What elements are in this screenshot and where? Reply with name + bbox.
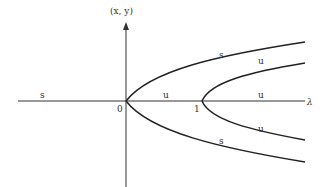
branch-inner-lower: [202, 101, 305, 140]
stability-label-trivial-right: u: [258, 90, 264, 100]
stability-label-trivial-left: s: [40, 90, 45, 100]
x-axis-label: λ: [306, 97, 313, 107]
y-axis-label: (x, y): [110, 6, 133, 16]
stability-label-inner-upper: u: [258, 56, 264, 66]
tick-one-label: 1: [194, 104, 200, 114]
origin-label: 0: [117, 104, 123, 114]
stability-label-trivial-middle: u: [163, 90, 169, 100]
stability-label-outer-upper: s: [219, 50, 224, 60]
branch-outer-upper: [126, 42, 305, 101]
branch-inner-upper: [202, 63, 305, 101]
branch-outer-lower: [126, 101, 305, 162]
stability-label-inner-lower: u: [258, 124, 264, 134]
stability-label-outer-lower: s: [219, 136, 224, 146]
xy-axis-arrow-icon: [123, 22, 129, 30]
bifurcation-diagram: (x, y) λ 0 1 s u u s s u u: [0, 0, 328, 187]
